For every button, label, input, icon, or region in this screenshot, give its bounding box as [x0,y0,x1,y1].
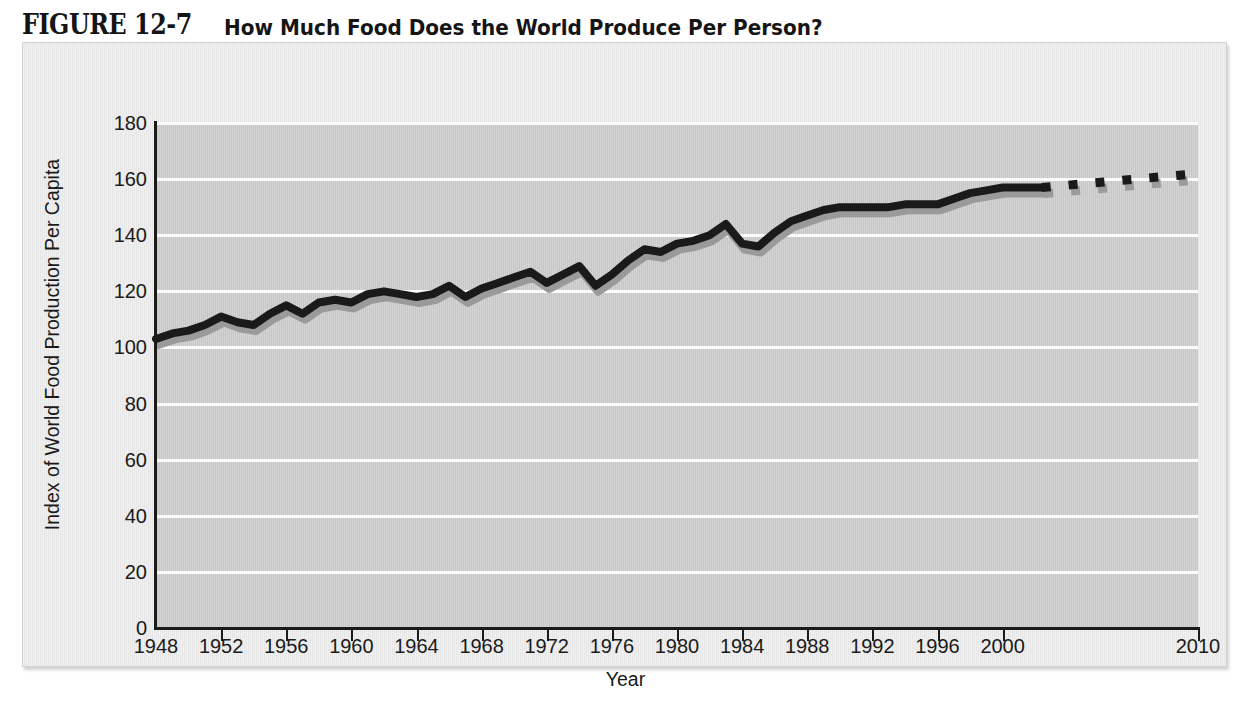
x-axis-tick [807,630,809,641]
x-tick-label: 1948 [134,635,179,658]
figure-number: FIGURE 12-7 [22,11,192,38]
y-tick-label: 80 [125,392,147,415]
y-tick-label: 140 [114,224,147,247]
series-line-projection [1042,174,1198,188]
y-tick-label: 180 [114,112,147,135]
plot-area [156,123,1198,628]
x-axis-tick [1198,630,1200,641]
x-axis-tick [938,630,940,641]
series-shadow [159,194,1045,346]
y-axis-title: Index of World Food Production Per Capit… [41,110,64,580]
x-axis-tick [872,630,874,641]
y-axis-tick-labels: 020406080100120140160180 [83,43,147,668]
x-axis-tick [351,630,353,641]
x-axis-tick [221,630,223,641]
x-axis-tick [482,630,484,641]
x-axis-tick [612,630,614,641]
y-tick-label: 40 [125,504,147,527]
data-series-line [156,123,1198,628]
figure-title-bar: FIGURE 12-7 How Much Food Does the World… [22,0,1222,38]
x-axis-tick [742,630,744,641]
y-tick-label: 100 [114,336,147,359]
x-axis-tick [1003,630,1005,641]
x-axis-title: Year [23,668,1228,691]
figure-root: FIGURE 12-7 How Much Food Does the World… [0,0,1252,701]
y-tick-label: 160 [114,168,147,191]
x-axis-tick [547,630,549,641]
y-tick-label: 120 [114,280,147,303]
y-tick-label: 60 [125,448,147,471]
y-tick-label: 20 [125,560,147,583]
y-axis-line [154,121,157,630]
x-axis-tick [286,630,288,641]
chart-panel: 020406080100120140160180 194819521956196… [22,42,1227,667]
x-axis-tick [677,630,679,641]
series-shadow [1044,180,1200,194]
x-axis-tick [417,630,419,641]
page-title: How Much Food Does the World Produce Per… [224,17,823,39]
